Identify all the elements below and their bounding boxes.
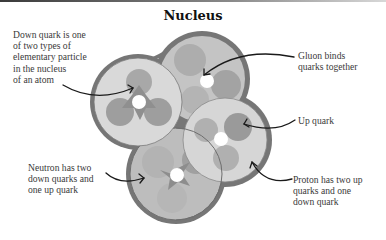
label-down-quark: Down quark is one of two types of elemen… xyxy=(13,29,87,85)
gluon-center xyxy=(214,132,228,146)
gluon-center xyxy=(200,74,214,88)
gluon-center xyxy=(132,95,146,109)
label-neutron: Neutron has two down quarks and one up q… xyxy=(28,162,94,196)
nucleon-left xyxy=(94,58,182,146)
label-proton: Proton has two up quarks and one down qu… xyxy=(293,174,363,208)
label-up-quark: Up quark xyxy=(298,115,334,126)
gluon-center xyxy=(170,168,184,182)
label-gluon: Gluon binds quarks together xyxy=(298,50,357,72)
nucleon-right xyxy=(183,98,267,182)
